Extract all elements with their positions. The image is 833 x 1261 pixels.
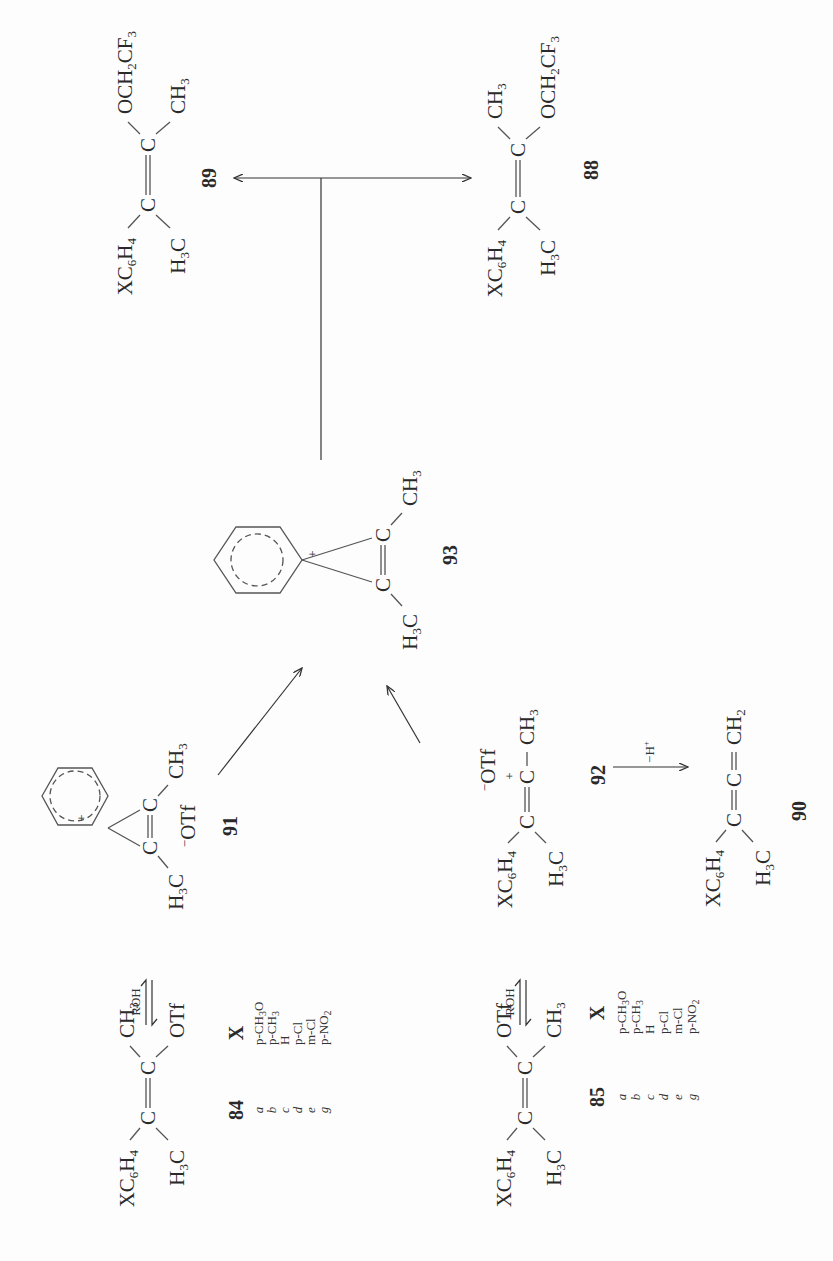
compound-84: C C XC6H4 H3C CH3 OTf bbox=[115, 1002, 191, 1207]
svg-text:OCH2CF3: OCH2CF3 bbox=[536, 36, 562, 119]
svg-text:g: g bbox=[684, 1093, 699, 1100]
svg-text:H3C: H3C bbox=[536, 240, 562, 276]
svg-text:ROH: ROH bbox=[502, 988, 517, 1015]
arrow-91-to-93 bbox=[218, 668, 302, 775]
compound-number-90: 90 bbox=[788, 801, 810, 821]
svg-text:a: a bbox=[614, 1093, 629, 1100]
svg-text:C: C bbox=[513, 1111, 537, 1125]
compound-91: + C C H3C CH3 −OTf 91 bbox=[42, 743, 241, 909]
svg-text:ROH: ROH bbox=[128, 988, 143, 1015]
svg-text:C: C bbox=[371, 578, 395, 592]
svg-text:c: c bbox=[642, 1094, 657, 1100]
compound-number-88: 88 bbox=[580, 160, 602, 180]
svg-text:C: C bbox=[136, 1111, 160, 1125]
svg-text:H: H bbox=[642, 1025, 657, 1034]
svg-text:H3C: H3C bbox=[165, 1150, 191, 1186]
svg-text:C: C bbox=[506, 143, 530, 157]
svg-text:CH3: CH3 bbox=[515, 709, 541, 745]
substituent-table-84: 84 X a p-CH3O b p-CH3 c H d p-Cl e m-Cl … bbox=[225, 1002, 333, 1120]
svg-text:CH3: CH3 bbox=[483, 83, 509, 119]
svg-text:+: + bbox=[502, 772, 517, 779]
svg-text:85: 85 bbox=[586, 1087, 608, 1107]
svg-text:C: C bbox=[138, 798, 162, 812]
svg-text:C: C bbox=[515, 770, 539, 784]
svg-text:CH3: CH3 bbox=[164, 743, 190, 779]
svg-text:C: C bbox=[722, 773, 746, 787]
compound-90: C C CH2 XC6H4 H3C 90 bbox=[701, 709, 810, 907]
svg-text:C: C bbox=[136, 1061, 160, 1075]
svg-text:XC6H4: XC6H4 bbox=[115, 1150, 141, 1208]
svg-text:H3C: H3C bbox=[542, 1150, 568, 1186]
svg-text:−OTf: −OTf bbox=[176, 805, 200, 847]
svg-text:C: C bbox=[371, 528, 395, 542]
reaction-scheme: C C XC6H4 H3C OCH2CF3 CH3 89 C C XC6H4 H… bbox=[0, 0, 833, 1261]
svg-text:XC6H4: XC6H4 bbox=[493, 851, 519, 909]
svg-text:OCH2CF3: OCH2CF3 bbox=[113, 31, 139, 114]
svg-text:XC6H4: XC6H4 bbox=[483, 240, 509, 298]
svg-text:C: C bbox=[138, 841, 162, 855]
substituent-table-85: 85 X a p-CH3O b p-CH3 c H d p-Cl e m-Cl … bbox=[586, 991, 701, 1107]
svg-text:C: C bbox=[136, 138, 160, 152]
svg-text:−OTf: −OTf bbox=[476, 749, 500, 791]
svg-text:g: g bbox=[316, 1106, 331, 1113]
compound-88: C C XC6H4 H3C CH3 OCH2CF3 88 bbox=[483, 36, 602, 297]
cyclohexadienyl-ring bbox=[214, 527, 302, 593]
svg-text:XC6H4: XC6H4 bbox=[701, 850, 727, 908]
svg-text:OTf: OTf bbox=[165, 1003, 189, 1038]
compound-number-92: 92 bbox=[587, 765, 609, 785]
svg-text:p-NO2: p-NO2 bbox=[684, 999, 701, 1034]
svg-text:m-Cl: m-Cl bbox=[670, 1007, 685, 1034]
svg-text:C: C bbox=[506, 200, 530, 214]
arrow-92-to-93 bbox=[387, 686, 420, 743]
svg-text:XC6H4: XC6H4 bbox=[492, 1150, 518, 1208]
svg-text:H3C: H3C bbox=[164, 874, 190, 910]
svg-text:CH3: CH3 bbox=[398, 470, 424, 506]
svg-text:+: + bbox=[74, 814, 89, 821]
compound-92: C C + CH3 XC6H4 H3C −OTf 92 bbox=[476, 709, 609, 908]
svg-text:e: e bbox=[670, 1094, 685, 1100]
svg-text:CH3: CH3 bbox=[542, 1002, 568, 1038]
compound-89: C C XC6H4 H3C OCH2CF3 CH3 89 bbox=[113, 31, 220, 295]
svg-text:CH2: CH2 bbox=[722, 709, 748, 745]
svg-text:p-NO2: p-NO2 bbox=[316, 1010, 333, 1045]
compound-93: + C C H3C CH3 93 bbox=[214, 470, 461, 649]
svg-text:b: b bbox=[628, 1093, 643, 1100]
svg-text:X: X bbox=[586, 1005, 608, 1020]
compound-number-93: 93 bbox=[439, 545, 461, 565]
svg-text:84: 84 bbox=[225, 1100, 247, 1120]
svg-text:H3C: H3C bbox=[751, 850, 777, 886]
svg-text:p-Cl: p-Cl bbox=[656, 1011, 671, 1035]
svg-text:H3C: H3C bbox=[398, 614, 424, 650]
branch-arrow-93-to-88-89 bbox=[234, 178, 471, 460]
svg-text:H3C: H3C bbox=[544, 851, 570, 887]
svg-text:H3C: H3C bbox=[166, 238, 192, 274]
compound-number-89: 89 bbox=[198, 168, 220, 188]
compound-number-91: 91 bbox=[219, 816, 241, 836]
label-xc6h4: XC6H4 bbox=[113, 238, 139, 296]
svg-text:CH3: CH3 bbox=[166, 78, 192, 114]
svg-text:C: C bbox=[515, 815, 539, 829]
svg-text:−H+: −H+ bbox=[641, 741, 657, 763]
svg-text:C: C bbox=[513, 1061, 537, 1075]
svg-text:C: C bbox=[722, 813, 746, 827]
svg-text:C: C bbox=[136, 198, 160, 212]
compound-85: C C XC6H4 H3C OTf CH3 bbox=[492, 1002, 568, 1207]
svg-text:d: d bbox=[656, 1093, 671, 1100]
deprotonation-arrow: −H+ bbox=[613, 741, 688, 767]
svg-text:X: X bbox=[225, 1025, 247, 1040]
